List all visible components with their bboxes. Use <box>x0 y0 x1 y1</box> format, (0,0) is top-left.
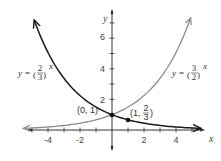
svg-text:3: 3 <box>38 72 43 82</box>
y-tick-label: 4 <box>100 64 105 74</box>
equation-label-three-halves: y = ( 3 2 ) x <box>171 61 207 82</box>
x-tick-label: -2 <box>76 135 84 145</box>
svg-text:3: 3 <box>143 112 148 122</box>
x-tick-label: 2 <box>141 135 146 145</box>
exponential-graph: -4 -2 2 4 6 4 2 x y (0, 1) (1, 2 3 ) y =… <box>0 0 221 161</box>
svg-text:y: y <box>171 68 176 78</box>
point-label-zero-one: (0, 1) <box>77 105 98 115</box>
point-zero-one <box>110 113 115 118</box>
svg-text:(1,: (1, <box>130 108 141 118</box>
svg-text:2: 2 <box>192 72 197 82</box>
svg-text:(: ( <box>33 70 36 80</box>
svg-text:): ) <box>197 70 200 80</box>
y-tick-label: 2 <box>100 95 105 105</box>
svg-text:=: = <box>179 68 184 78</box>
axes <box>28 10 204 150</box>
svg-text:=: = <box>25 68 30 78</box>
x-tick-label: 4 <box>173 135 178 145</box>
svg-text:x: x <box>202 61 207 71</box>
point-label-one-two-thirds: (1, 2 3 ) <box>130 103 153 122</box>
svg-text:(: ( <box>187 70 190 80</box>
x-axis-label: x <box>208 133 214 144</box>
equation-label-two-thirds: y = ( 2 3 ) x <box>17 61 53 82</box>
svg-text:x: x <box>48 61 53 71</box>
y-tick-label: 6 <box>100 32 105 42</box>
x-tick-label: -4 <box>44 135 52 145</box>
y-axis-label: y <box>102 13 108 24</box>
svg-text:): ) <box>150 108 153 118</box>
svg-text:): ) <box>43 70 46 80</box>
point-one-two-thirds <box>126 118 131 123</box>
curve-three-halves-power <box>24 18 190 128</box>
svg-text:y: y <box>17 68 22 78</box>
